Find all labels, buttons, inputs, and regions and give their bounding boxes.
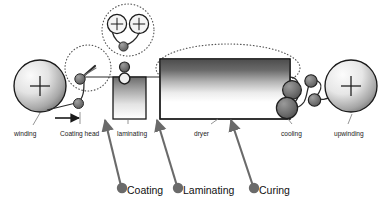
coating-head-assembly <box>74 66 97 109</box>
part-label-cooling: cooling <box>281 130 302 138</box>
callout-label-curing: Curing <box>259 184 290 196</box>
upwinding-roll <box>325 60 377 112</box>
part-label-dryer: dryer <box>194 130 210 138</box>
callout-label-coating: Coating <box>127 184 163 196</box>
part-label-cooling-group: cooling <box>281 119 302 138</box>
coating-head-detail-bubble <box>107 14 148 51</box>
callout-label-laminating: Laminating <box>183 184 235 196</box>
callout-dot-laminating <box>173 183 183 193</box>
part-label-laminating-group: laminating <box>117 120 147 138</box>
callout-dot-coating <box>117 183 127 193</box>
part-label-winding: winding <box>13 130 37 138</box>
part-label-winding-group: winding <box>13 113 40 138</box>
part-label-upwinding-group: upwinding <box>334 114 364 138</box>
part-label-dryer-group: dryer <box>194 119 218 138</box>
winding-roll <box>14 60 66 112</box>
part-label-coating-head: Coating head <box>60 130 100 138</box>
laminating-station <box>113 62 146 119</box>
coating-head-highlight-region <box>65 45 111 91</box>
process-diagram: winding Coating head laminating dryer co… <box>0 0 389 209</box>
diagram-canvas: winding Coating head laminating dryer co… <box>0 0 389 209</box>
part-label-laminating: laminating <box>117 130 147 138</box>
callout-dot-curing <box>249 183 259 193</box>
part-label-upwinding: upwinding <box>334 130 364 138</box>
dryer-oven <box>160 59 290 119</box>
part-label-coating-head-group: Coating head <box>60 112 100 138</box>
